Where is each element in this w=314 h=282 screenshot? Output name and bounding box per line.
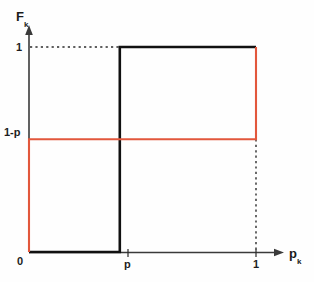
y-axis-label-main: F <box>16 9 24 24</box>
plot-canvas <box>0 0 314 282</box>
x-axis-label-main: p <box>289 246 297 261</box>
y-tick-label-one: 1 <box>16 41 22 53</box>
y-axis-label-subscript: k <box>24 20 28 29</box>
red-step-path <box>29 47 256 252</box>
guide-lines-group <box>30 47 256 252</box>
y-tick-label-one-minus-p: 1-p <box>4 126 21 138</box>
black-step-curve <box>29 47 256 252</box>
x-tick-label-one: 1 <box>253 258 259 270</box>
y-axis-label: Fk <box>16 9 28 27</box>
origin-label: 0 <box>17 255 23 267</box>
axes-group <box>25 25 284 256</box>
x-axis-label-subscript: k <box>297 257 301 266</box>
red-step-curve <box>29 47 256 252</box>
black-step-path <box>29 47 256 252</box>
x-axis-arrowhead <box>274 249 284 257</box>
cdf-step-function-figure: Fk pk 1 1-p 0 p 1 <box>0 0 314 282</box>
x-tick-label-p: p <box>124 258 131 270</box>
x-axis-label: pk <box>289 246 301 264</box>
